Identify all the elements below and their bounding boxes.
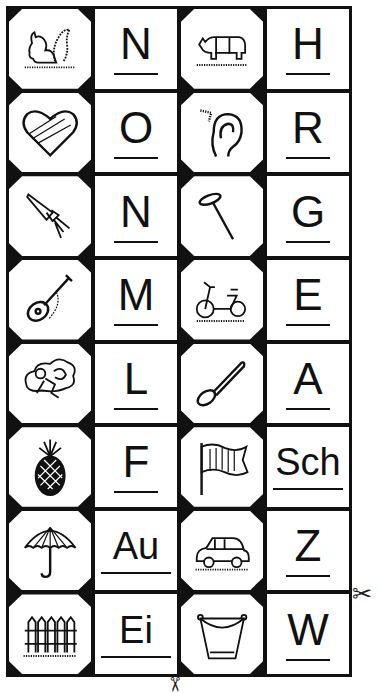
underline	[286, 241, 330, 243]
spoon-icon	[191, 353, 253, 414]
picture-card-fence	[9, 594, 91, 674]
underline	[114, 491, 158, 493]
picture-card-moped	[181, 260, 263, 340]
picture-card-car	[181, 511, 263, 591]
letter: N	[120, 190, 152, 234]
guitar-icon	[19, 269, 81, 330]
picture-card-nail	[181, 176, 263, 256]
flag-icon	[191, 437, 253, 498]
underline	[114, 157, 158, 159]
underline	[273, 488, 344, 490]
letter: Au	[113, 527, 159, 565]
letter: G	[291, 190, 325, 234]
letter-card-n-2: N	[95, 176, 177, 256]
picture-card-umbrella	[9, 511, 91, 591]
squirrel-icon	[19, 19, 81, 80]
picture-card-rocket	[9, 176, 91, 256]
picture-card-rhino	[181, 9, 263, 89]
letter-card-w: W	[267, 594, 349, 674]
letter-card-g: G	[267, 176, 349, 256]
letter-card-z: Z	[267, 511, 349, 591]
worksheet-frame: N H O	[6, 6, 352, 677]
letter: N	[120, 22, 152, 66]
letter-card-a: A	[267, 344, 349, 424]
scissors-icon: ✂	[352, 582, 372, 606]
picture-card-bucket	[181, 594, 263, 674]
letter-card-o: O	[95, 93, 177, 173]
picture-card-flag	[181, 427, 263, 507]
letter-card-au: Au	[95, 511, 177, 591]
underline	[101, 572, 172, 574]
scissors-icon: ✂	[165, 676, 185, 693]
letter: R	[292, 106, 324, 150]
umbrella-icon	[19, 520, 81, 581]
letter-card-sch: Sch	[267, 427, 349, 507]
picture-card-guitar	[9, 260, 91, 340]
letter: H	[292, 22, 324, 66]
rocket-icon	[19, 186, 81, 247]
heart-icon	[19, 102, 81, 163]
picture-card-squirrel	[9, 9, 91, 89]
underline	[114, 408, 158, 410]
underline	[286, 408, 330, 410]
letter-card-ei: Ei	[95, 594, 177, 674]
picture-card-angel	[9, 344, 91, 424]
picture-card-ear	[181, 93, 263, 173]
letter-card-l: L	[95, 344, 177, 424]
pineapple-icon	[19, 437, 81, 498]
letter: A	[293, 357, 322, 401]
picture-card-spoon	[181, 344, 263, 424]
letter: Sch	[275, 443, 340, 481]
underline	[286, 324, 330, 326]
letter: L	[124, 357, 148, 401]
underline	[286, 659, 330, 661]
nail-icon	[191, 186, 253, 247]
letter-card-n: N	[95, 9, 177, 89]
underline	[286, 157, 330, 159]
picture-card-heart	[9, 93, 91, 173]
domino-grid: N H O	[9, 9, 349, 674]
underline	[114, 73, 158, 75]
letter: O	[119, 106, 153, 150]
letter-card-e: E	[267, 260, 349, 340]
bucket-icon	[191, 604, 253, 665]
letter-card-f: F	[95, 427, 177, 507]
underline	[114, 241, 158, 243]
underline	[114, 324, 158, 326]
letter-card-h: H	[267, 9, 349, 89]
rhino-icon	[191, 19, 253, 80]
fence-icon	[19, 604, 81, 665]
picture-card-pineapple	[9, 427, 91, 507]
letter: Z	[295, 524, 322, 568]
angel-icon	[19, 353, 81, 414]
letter-card-m: M	[95, 260, 177, 340]
car-icon	[191, 520, 253, 581]
letter: M	[118, 273, 155, 317]
underline	[286, 575, 330, 577]
letter: F	[123, 440, 150, 484]
letter: Ei	[119, 611, 153, 649]
letter: E	[293, 273, 322, 317]
underline	[286, 73, 330, 75]
underline	[101, 656, 172, 658]
letter-card-r: R	[267, 93, 349, 173]
moped-icon	[191, 269, 253, 330]
ear-icon	[191, 102, 253, 163]
letter: W	[287, 608, 329, 652]
